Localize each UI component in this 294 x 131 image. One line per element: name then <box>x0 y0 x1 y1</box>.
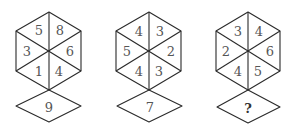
cell-bottom-right: 3 <box>155 64 163 79</box>
cell-bottom-left: 1 <box>35 64 43 79</box>
cell-left: 2 <box>222 44 230 59</box>
diamond-value: 7 <box>146 100 154 115</box>
cell-top-right: 3 <box>156 24 164 39</box>
cell-left: 3 <box>23 44 31 59</box>
cell-bottom-left: 4 <box>234 64 242 79</box>
cell-bottom-right: 4 <box>55 64 63 79</box>
figure-1: 5 8 3 6 1 4 9 <box>16 12 81 122</box>
figure-3: 3 4 2 6 4 5 ? <box>216 12 280 123</box>
cell-top-left: 5 <box>35 23 43 38</box>
figure-2: 4 3 5 2 4 3 7 <box>116 12 182 122</box>
cell-top-right: 8 <box>56 23 64 38</box>
cell-right: 6 <box>266 44 274 59</box>
cell-left: 5 <box>123 44 131 59</box>
puzzle-canvas: 5 8 3 6 1 4 9 4 3 5 2 4 3 7 3 4 2 6 4 5 … <box>0 0 294 131</box>
cell-bottom-right: 5 <box>254 64 262 79</box>
diamond-value: 9 <box>45 100 53 115</box>
unknown-value: ? <box>244 101 252 116</box>
cell-right: 2 <box>167 44 175 59</box>
cell-bottom-left: 4 <box>135 64 143 79</box>
cell-right: 6 <box>66 44 74 59</box>
cell-top-right: 4 <box>255 24 263 39</box>
cell-top-left: 3 <box>234 24 242 39</box>
cell-top-left: 4 <box>135 24 143 39</box>
